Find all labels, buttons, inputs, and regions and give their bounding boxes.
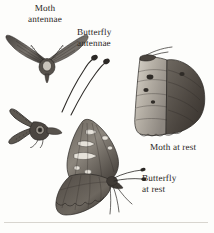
moth-thorax-body: [39, 59, 55, 76]
label-moth-antennae: Moth antennae: [12, 3, 78, 24]
butterfly-at-rest-antennae: [114, 170, 143, 181]
butterfly-antenna-shaft-lower: [71, 63, 105, 115]
moth-head-plumose-antenna-upper: [10, 109, 33, 127]
plate-baseline-rule: [4, 222, 208, 223]
label-moth-at-rest: Moth at rest: [150, 142, 214, 153]
butterfly-at-rest-hindwing: [56, 174, 111, 215]
illustration-plate: Moth antennae Butterfly antennae Moth at…: [0, 0, 214, 233]
moth-left-wing: [6, 35, 45, 64]
butterfly-at-rest-legs: [110, 186, 132, 214]
label-butterfly-at-rest: Butterfly at rest: [142, 173, 212, 194]
label-butterfly-antennae: Butterfly antennae: [77, 27, 139, 48]
butterfly-antenna-shaft-upper: [62, 59, 93, 112]
figure-butterfly-at-rest: [50, 110, 146, 224]
moth-head-capsule: [30, 122, 49, 140]
moth-abdomen: [45, 74, 49, 83]
figure-butterfly-antennae-detail: [58, 52, 112, 116]
